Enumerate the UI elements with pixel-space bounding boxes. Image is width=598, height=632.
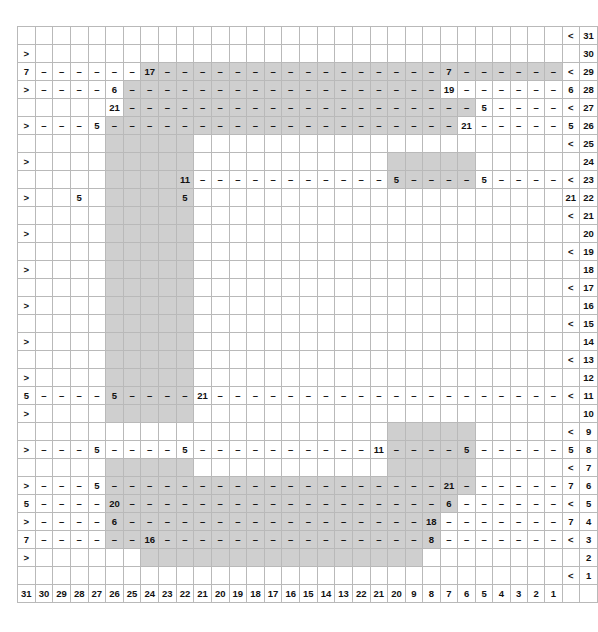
matrix-cell-empty[interactable] [440,279,458,297]
matrix-cell-empty[interactable] [388,315,406,333]
matrix-cell-dash[interactable]: – [211,477,229,495]
matrix-cell-end-marker[interactable]: < [562,279,580,297]
matrix-cell-empty[interactable] [545,45,562,63]
matrix-cell-empty[interactable] [53,423,71,441]
matrix-cell-empty[interactable] [88,243,106,261]
matrix-cell-dash[interactable]: – [545,477,562,495]
matrix-cell-empty[interactable] [475,45,492,63]
matrix-cell-empty[interactable] [475,297,492,315]
matrix-cell-empty[interactable] [70,207,88,225]
matrix-cell-dash[interactable]: – [352,63,370,81]
matrix-cell-empty[interactable] [423,567,441,585]
matrix-cell-empty[interactable] [527,45,544,63]
matrix-cell-value[interactable]: 5 [106,387,124,405]
matrix-cell-dash[interactable]: – [405,495,422,513]
matrix-cell-dash[interactable]: – [35,513,53,531]
matrix-cell-empty[interactable] [35,207,53,225]
matrix-cell-dash[interactable]: – [211,387,229,405]
matrix-cell-dash[interactable]: – [510,531,527,549]
matrix-cell-empty[interactable] [510,27,527,45]
matrix-cell-empty[interactable] [211,333,229,351]
matrix-cell-dash[interactable]: – [35,477,53,495]
matrix-cell-dash[interactable]: – [70,495,88,513]
matrix-cell-dash[interactable]: – [211,117,229,135]
matrix-cell-empty[interactable] [388,189,406,207]
matrix-cell-empty[interactable] [247,207,265,225]
matrix-cell-empty[interactable] [88,45,106,63]
matrix-cell-dash[interactable]: – [545,387,562,405]
matrix-cell-empty[interactable] [300,225,318,243]
matrix-cell-empty[interactable] [388,243,406,261]
matrix-cell-dash[interactable]: – [545,99,562,117]
matrix-cell-empty[interactable] [388,45,406,63]
matrix-cell-empty[interactable] [317,333,335,351]
matrix-cell-value[interactable]: 5 [176,189,194,207]
matrix-cell-empty[interactable] [440,369,458,387]
matrix-cell-empty[interactable] [370,351,388,369]
matrix-cell-empty[interactable] [18,243,36,261]
matrix-cell-dash[interactable]: – [370,495,388,513]
matrix-cell-empty[interactable] [88,261,106,279]
matrix-cell-empty[interactable] [317,261,335,279]
matrix-cell-empty[interactable] [229,243,247,261]
matrix-cell-empty[interactable] [35,423,53,441]
matrix-cell-value[interactable]: 5 [562,441,580,459]
matrix-cell-empty[interactable] [388,225,406,243]
matrix-cell-dash[interactable]: – [352,171,370,189]
matrix-cell-empty[interactable] [282,351,300,369]
matrix-cell-empty[interactable] [194,333,212,351]
matrix-cell-empty[interactable] [211,207,229,225]
matrix-cell-empty[interactable] [335,135,353,153]
matrix-cell-empty[interactable] [35,333,53,351]
matrix-cell-empty[interactable] [300,405,318,423]
matrix-cell-dash[interactable]: – [510,387,527,405]
matrix-cell-empty[interactable] [123,549,141,567]
matrix-cell-empty[interactable] [370,405,388,423]
matrix-cell-empty[interactable] [317,153,335,171]
matrix-cell-empty[interactable] [370,189,388,207]
matrix-cell-empty[interactable] [53,297,71,315]
matrix-cell-empty[interactable] [229,333,247,351]
matrix-cell-empty[interactable] [194,315,212,333]
matrix-cell-dash[interactable]: – [423,171,441,189]
matrix-cell-end-marker[interactable]: < [562,99,580,117]
matrix-cell-dash[interactable]: – [388,513,406,531]
matrix-cell-empty[interactable] [545,27,562,45]
matrix-cell-empty[interactable] [229,189,247,207]
matrix-cell-empty[interactable] [18,135,36,153]
matrix-cell-empty[interactable] [562,333,580,351]
matrix-cell-empty[interactable] [282,423,300,441]
matrix-cell-empty[interactable] [141,333,159,351]
matrix-cell-empty[interactable] [88,423,106,441]
matrix-cell-dash[interactable]: – [106,441,124,459]
matrix-cell-empty[interactable] [335,207,353,225]
matrix-cell-dash[interactable]: – [405,513,422,531]
matrix-cell-empty[interactable] [194,135,212,153]
matrix-cell-dash[interactable]: – [388,531,406,549]
matrix-cell-dash[interactable]: – [475,477,492,495]
matrix-cell-empty[interactable] [510,549,527,567]
matrix-cell-empty[interactable] [440,333,458,351]
matrix-cell-dash[interactable]: – [335,171,353,189]
matrix-cell-empty[interactable] [211,369,229,387]
matrix-cell-end-marker[interactable]: < [562,27,580,45]
matrix-cell-dash[interactable]: – [458,99,476,117]
matrix-cell-dash[interactable]: – [370,117,388,135]
matrix-cell-empty[interactable] [282,369,300,387]
matrix-cell-empty[interactable] [458,351,476,369]
matrix-cell-dash[interactable]: – [370,171,388,189]
matrix-cell-dash[interactable]: – [388,387,406,405]
matrix-cell-empty[interactable] [247,225,265,243]
matrix-cell-dash[interactable]: – [159,495,177,513]
matrix-cell-value[interactable]: 7 [562,513,580,531]
matrix-cell-dash[interactable]: – [35,441,53,459]
matrix-cell-empty[interactable] [211,135,229,153]
matrix-cell-dash[interactable]: – [247,63,265,81]
matrix-cell-end-marker[interactable]: < [562,135,580,153]
matrix-cell-empty[interactable] [35,549,53,567]
matrix-cell-dash[interactable]: – [194,81,212,99]
matrix-cell-empty[interactable] [282,549,300,567]
matrix-cell-empty[interactable] [35,369,53,387]
matrix-cell-empty[interactable] [106,423,124,441]
matrix-cell-empty[interactable] [370,225,388,243]
